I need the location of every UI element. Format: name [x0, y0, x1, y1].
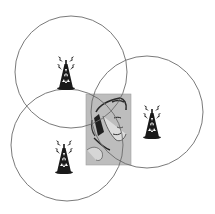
radio-tower-icon: [143, 105, 161, 139]
person-on-phone-icon: [86, 94, 131, 165]
triangulation-diagram: [0, 0, 215, 214]
radio-tower-icon: [55, 140, 73, 174]
radio-tower-icon: [57, 56, 75, 90]
